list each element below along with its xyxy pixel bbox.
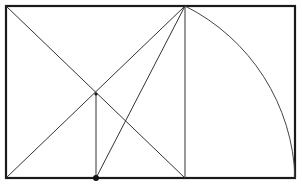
base-point-dot [93, 175, 99, 181]
intersection-point [94, 92, 97, 95]
geometric-diagram [0, 0, 303, 184]
diagram-canvas: Golden rectangle construction [0, 0, 303, 184]
background [0, 0, 303, 184]
